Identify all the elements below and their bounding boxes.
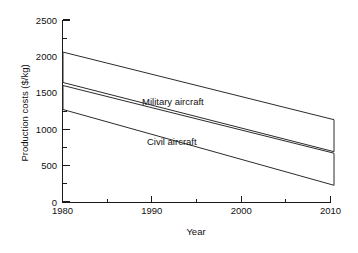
y-tick-label-500: 500 [41,160,57,171]
chart-figure: 2500 2000 1500 1000 500 0 1980 1990 2000… [0,0,358,253]
x-tick-label-2010: 2010 [320,205,341,216]
scan-ghost-artifact [194,31,197,45]
military-aircraft-label: Military aircraft [142,96,204,107]
y-tick-label-1000: 1000 [36,124,57,135]
x-tick-label-2000: 2000 [231,205,252,216]
x-axis-title: Year [186,226,205,237]
y-tick-label-2000: 2000 [36,51,57,62]
x-tick-label-1980: 1980 [52,205,73,216]
y-axis-title: Production costs ($/kg) [19,64,30,161]
x-tick-label-1990: 1990 [141,205,162,216]
civil-aircraft-label: Civil aircraft [147,136,197,147]
production-costs-chart: 2500 2000 1500 1000 500 0 1980 1990 2000… [0,0,358,253]
ghost-text-upper [194,31,197,45]
y-tick-label-2500: 2500 [36,15,57,26]
y-tick-label-1500: 1500 [36,87,57,98]
